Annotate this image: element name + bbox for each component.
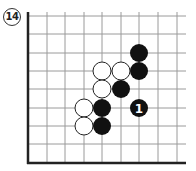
white-stone (112, 62, 130, 80)
go-board-diagram: 1 (0, 0, 196, 171)
white-stone (75, 99, 93, 117)
black-stone (130, 62, 148, 80)
white-stone (93, 62, 111, 80)
black-stone: 1 (130, 99, 148, 117)
black-stone (93, 117, 111, 135)
white-stone (75, 117, 93, 135)
black-stone (112, 80, 130, 98)
black-stone (93, 99, 111, 117)
move-number-label: 1 (135, 102, 143, 116)
white-stone (93, 80, 111, 98)
black-stone (130, 44, 148, 62)
